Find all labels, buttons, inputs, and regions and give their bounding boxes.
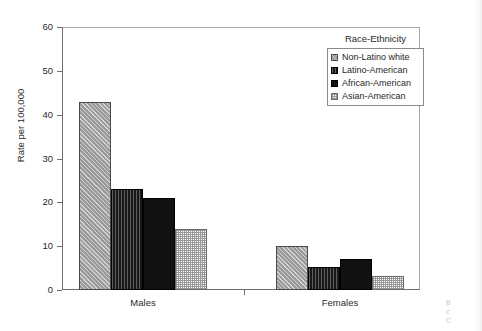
y-tick-label-0: 0: [48, 284, 53, 295]
x-label-males: Males: [130, 297, 155, 308]
bar-males-non-latino-white: [79, 102, 111, 290]
bar-males-african-american: [143, 198, 175, 290]
x-tick-mark-group-divider: [244, 290, 245, 295]
legend-item-asian-american: Asian-American: [331, 90, 420, 103]
bar-males-asian-american: [175, 229, 207, 290]
legend-swatch-latino-american: [331, 67, 338, 74]
bar-females-asian-american: [372, 276, 404, 290]
legend-swatch-non-latino-white: [331, 54, 338, 61]
bar-males-latino-american: [111, 189, 143, 290]
legend-swatch-asian-american: [331, 93, 338, 100]
legend-label-non-latino-white: Non-Latino white: [342, 53, 410, 62]
legend-item-african-american: African-American: [331, 77, 420, 90]
y-tick-label-30: 30: [42, 153, 53, 164]
legend-label-latino-american: Latino-American: [342, 66, 408, 75]
y-tick-label-10: 10: [42, 240, 53, 251]
page-edge-shade: [474, 0, 482, 331]
bar-females-latino-american: [308, 267, 340, 290]
y-tick-label-50: 50: [42, 65, 53, 76]
x-label-females: Females: [322, 297, 358, 308]
legend-label-african-american: African-American: [342, 79, 411, 88]
y-tick-label-40: 40: [42, 109, 53, 120]
legend-title: Race-Ethnicity: [327, 33, 424, 44]
bar-females-non-latino-white: [276, 246, 308, 290]
y-axis-title: Rate per 100,000: [15, 56, 26, 196]
legend-item-latino-american: Latino-American: [331, 64, 420, 77]
bar-chart-figure: Rate per 100,000 60 50 40 30 20 10 0: [0, 0, 482, 331]
legend: Non-Latino white Latino-American African…: [327, 48, 424, 106]
y-tick-label-60: 60: [42, 21, 53, 32]
legend-item-non-latino-white: Non-Latino white: [331, 51, 420, 64]
legend-label-asian-american: Asian-American: [342, 92, 406, 101]
legend-swatch-african-american: [331, 80, 338, 87]
y-tick-label-20: 20: [42, 196, 53, 207]
bar-females-african-american: [340, 259, 372, 290]
